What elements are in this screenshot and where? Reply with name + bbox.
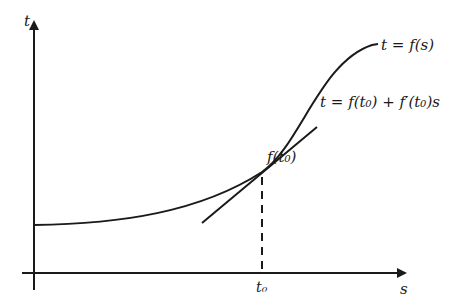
curve-f-of-s <box>34 44 378 225</box>
tangent-label: t = f(t₀) + f′(t₀)s <box>320 93 440 111</box>
curve-label: t = f(s) <box>381 36 434 54</box>
point-label: f(t₀) <box>266 148 296 166</box>
tangent-line-diagram: t s t₀ t = f(s) t = f(t₀) + f′(t₀)s f(t₀… <box>0 0 453 308</box>
y-axis-label: t <box>24 12 31 30</box>
x-tick-label-t0: t₀ <box>256 279 268 295</box>
x-axis-label: s <box>400 280 408 298</box>
tangent-line <box>202 127 317 223</box>
